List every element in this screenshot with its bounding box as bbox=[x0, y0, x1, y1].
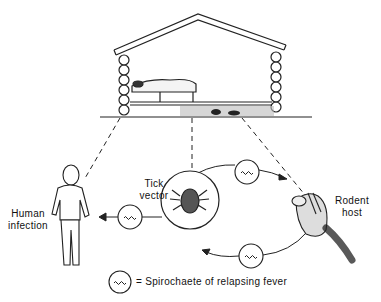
spirochaete-symbol-top bbox=[235, 160, 259, 184]
spirochaete-symbol-bottom bbox=[239, 244, 263, 268]
bed-with-sleeper bbox=[132, 80, 196, 103]
log-cabin bbox=[100, 14, 312, 117]
label-line: Tick bbox=[132, 178, 176, 190]
human-figure bbox=[52, 165, 89, 265]
rodent-host-label: Rodent host bbox=[330, 195, 374, 219]
label-line: Human bbox=[6, 208, 50, 220]
label-line: host bbox=[330, 207, 374, 219]
legend-text: = Spirochaete of relapsing fever bbox=[136, 276, 287, 288]
right-log-wall bbox=[271, 52, 281, 112]
left-log-wall bbox=[119, 55, 129, 115]
tick-vector-label: Tick vector bbox=[132, 178, 176, 202]
label-line: Rodent bbox=[330, 195, 374, 207]
relapsing-fever-cycle-diagram bbox=[0, 0, 381, 302]
human-infection-label: Human infection bbox=[6, 208, 50, 232]
spirochaete-symbol-legend bbox=[109, 271, 131, 293]
spirochaete-symbol-left bbox=[118, 205, 142, 229]
label-line: vector bbox=[132, 190, 176, 202]
label-line: infection bbox=[6, 220, 50, 232]
